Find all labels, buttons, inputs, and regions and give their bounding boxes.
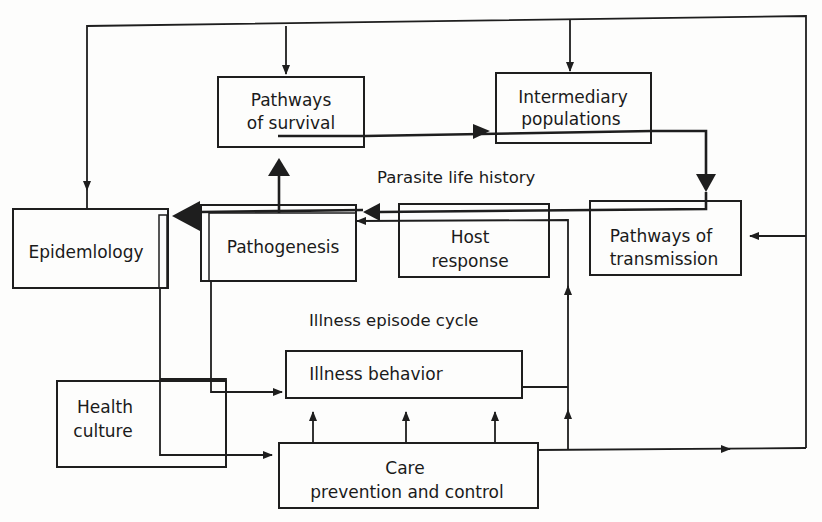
node-pathways-of-transmission: Pathways of transmission — [590, 201, 741, 275]
arrowhead-right-icon — [473, 124, 490, 139]
node-label: populations — [521, 109, 620, 129]
node-label: of survival — [247, 113, 335, 133]
node-label: Care — [385, 458, 424, 478]
node-label: culture — [73, 421, 132, 441]
node-label: Intermediary — [518, 87, 628, 107]
node-pathogenesis: Pathogenesis — [201, 205, 356, 281]
node-label: prevention and control — [310, 482, 503, 502]
node-label: transmission — [610, 249, 719, 269]
arrowhead-down-icon — [696, 174, 716, 192]
arrowhead-left-large-icon — [172, 201, 200, 231]
caption-illness-episode-cycle: Illness episode cycle — [309, 311, 479, 330]
node-label: response — [431, 251, 508, 271]
arrowhead-left-icon — [363, 203, 380, 221]
node-host-response: Host response — [399, 204, 549, 277]
node-label: Epidemlology — [28, 242, 143, 262]
node-care-prevention-control: Care prevention and control — [279, 443, 538, 508]
node-epidemiology: Epidemlology — [13, 209, 168, 288]
caption-parasite-life-history: Parasite life history — [377, 168, 536, 187]
node-label: Host — [451, 227, 490, 247]
diagram-canvas: Pathways of survival Intermediary popula… — [0, 0, 822, 522]
arrowhead-up-icon — [268, 158, 290, 176]
node-label: Pathways of — [610, 226, 713, 246]
node-label: Pathways — [251, 90, 332, 110]
node-label: Illness behavior — [309, 364, 442, 384]
node-label: Pathogenesis — [227, 237, 340, 257]
node-label: Health — [77, 397, 133, 417]
node-illness-behavior: Illness behavior — [286, 351, 522, 398]
